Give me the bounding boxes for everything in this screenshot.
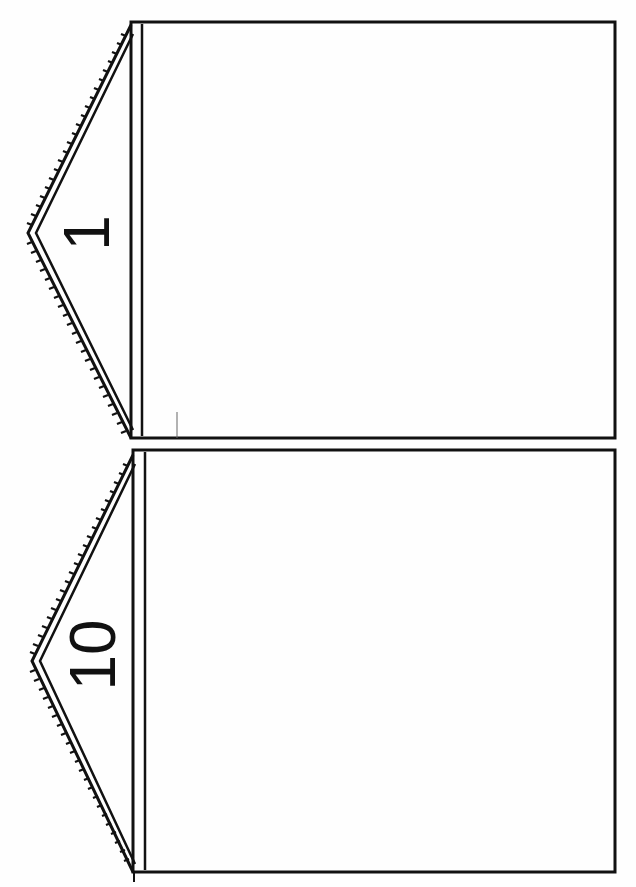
frames-drawing bbox=[0, 0, 636, 887]
frame-1-body bbox=[131, 22, 615, 438]
frame-1-number: 1 bbox=[55, 203, 125, 263]
frame-10-number: 10 bbox=[61, 605, 131, 705]
frame-10-body bbox=[133, 450, 615, 872]
document-page: 1 10 bbox=[0, 0, 636, 887]
